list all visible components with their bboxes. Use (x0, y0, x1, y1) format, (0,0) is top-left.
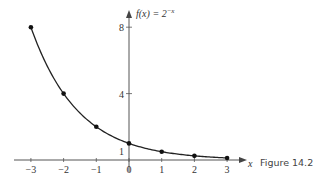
data-point (192, 154, 197, 159)
y-axis-arrow-icon (126, 10, 132, 18)
x-tick-label: 2 (192, 164, 197, 175)
x-axis-label: x (247, 158, 253, 169)
y-tick-label: 1 (119, 146, 124, 157)
x-axis-arrow-icon (239, 157, 247, 163)
x-tick-label: 3 (225, 164, 230, 175)
function-label: f(x) = 2−x (136, 7, 175, 20)
exponential-decay-chart: −3−2−10123 841 x f(x) = 2−x (0, 0, 328, 180)
data-point (225, 156, 230, 161)
figure-caption: Figure 14.2 (260, 157, 313, 168)
y-tick-label: 4 (119, 89, 124, 100)
data-point (94, 125, 99, 130)
x-tick-label: 1 (159, 164, 164, 175)
data-point (29, 25, 34, 30)
y-ticks: 841 (119, 22, 132, 157)
data-point (159, 149, 164, 154)
y-tick-label: 8 (119, 22, 124, 33)
x-tick-label: 0 (127, 164, 132, 175)
x-tick-label: −2 (58, 164, 69, 175)
x-ticks: −3−2−10123 (26, 158, 230, 175)
x-tick-label: −3 (26, 164, 37, 175)
axes (14, 10, 247, 172)
x-tick-label: −1 (91, 164, 102, 175)
data-point (127, 141, 132, 146)
data-point (61, 91, 66, 96)
